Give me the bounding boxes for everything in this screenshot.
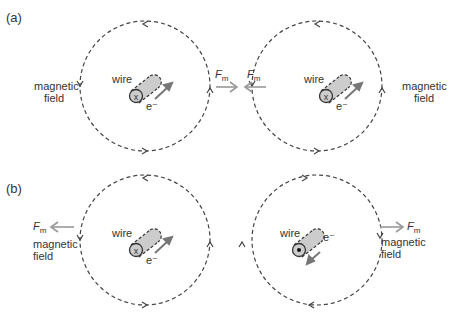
- electron-label: e⁻: [146, 100, 158, 112]
- svg-text:x: x: [134, 246, 139, 256]
- field-label: magneticfield: [381, 236, 426, 260]
- wire-label: wire: [112, 227, 132, 239]
- field-label: magneticfield: [34, 80, 74, 104]
- force-label: Fm: [407, 220, 420, 235]
- field-label: magneticfield: [402, 80, 446, 104]
- diagram-graphics: x x x: [0, 0, 449, 316]
- electron-label: e⁻: [336, 100, 348, 112]
- wire-label: wire: [304, 73, 324, 85]
- diagram: x x x (a) (b) wire e⁻ magneticfield wire…: [0, 0, 449, 316]
- force-label: Fm: [215, 68, 228, 83]
- wire-label: wire: [112, 73, 132, 85]
- force-label: Fm: [247, 68, 260, 83]
- electron-label: e⁻: [323, 231, 335, 243]
- electron-label: e⁻: [146, 254, 158, 266]
- field-label: magneticfield: [33, 238, 78, 262]
- wire-label: wire: [280, 227, 300, 239]
- panel-label-b: (b): [6, 183, 22, 195]
- field-circle-a-right: [252, 21, 382, 151]
- svg-text:x: x: [134, 92, 139, 102]
- svg-text:x: x: [324, 92, 329, 102]
- panel-label-a: (a): [6, 12, 22, 24]
- force-label: Fm: [33, 220, 46, 235]
